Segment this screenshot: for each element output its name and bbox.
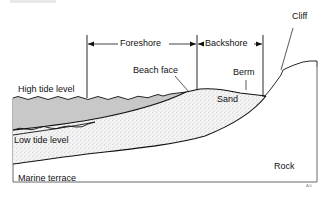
label-berm: Berm <box>233 68 255 77</box>
label-marine-terrace: Marine terrace <box>18 174 76 183</box>
artist-signature: AG <box>306 183 312 188</box>
label-rock: Rock <box>274 162 295 171</box>
cropped-caption-fragment <box>10 0 56 3</box>
beach-face-leader-line <box>175 76 189 92</box>
label-backshore: Backshore <box>205 39 248 48</box>
cliff-leader-line <box>281 28 293 70</box>
label-beach-face: Beach face <box>133 66 178 75</box>
cliff-profile-line <box>264 61 317 97</box>
label-cliff: Cliff <box>292 12 307 21</box>
label-low-tide-level: Low tide level <box>14 136 69 145</box>
label-foreshore: Foreshore <box>120 39 161 48</box>
label-sand: Sand <box>217 95 238 104</box>
beach-profile-diagram: Foreshore Backshore Cliff Beach face Ber… <box>0 0 328 199</box>
label-high-tide-level: High tide level <box>18 85 75 94</box>
